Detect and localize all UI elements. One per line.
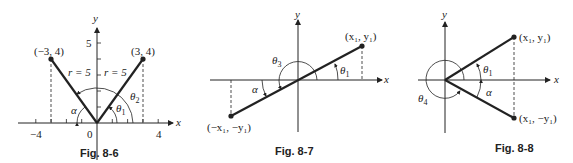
point-label: (x₁, −y₁) [519, 112, 557, 125]
figure-8-8: (x₁, y₁) (x₁, −y₁) x y θ1 α θ4 Fig. 8-8 [418, 8, 559, 154]
theta4-label: θ4 [418, 92, 427, 107]
theta1-label: θ1 [483, 63, 492, 78]
theta1-label: θ1 [116, 102, 125, 117]
point-dot [359, 43, 364, 48]
theta1-arc [477, 64, 481, 80]
y-ticks [97, 43, 101, 107]
point-dot [140, 56, 145, 61]
point-label: (−x₁, −y₁) [207, 121, 251, 134]
x-tick-label: 4 [156, 128, 162, 140]
terminal-line-lower [445, 80, 514, 118]
y-axis-label: y [294, 8, 300, 20]
x-tick-label: −4 [30, 128, 42, 140]
alpha-arc [262, 80, 266, 96]
theta2-label: θ2 [130, 90, 139, 105]
theta3-label: θ3 [272, 54, 281, 69]
alpha-label: α [252, 83, 258, 95]
figure-caption: Fig. 8-8 [495, 142, 534, 154]
radius-label: r = 5 [68, 66, 91, 78]
theta1-arc [335, 64, 338, 80]
point-label: (−3, 4) [34, 45, 64, 58]
y-axis-label: y [92, 12, 98, 24]
origin-label: 0 [87, 128, 93, 140]
figure-caption: Fig. 8-6 [80, 147, 119, 159]
alpha-label: α [486, 86, 492, 98]
figure-8-7: (x₁, y₁) (−x₁, −y₁) x y θ3 θ1 α Fig. 8-7 [207, 8, 389, 157]
point-dot [228, 113, 233, 118]
point-label: (x₁, y₁) [519, 31, 551, 44]
radius-label: r = 5 [104, 66, 127, 78]
point-dot [511, 115, 516, 120]
x-axis-label: x [553, 73, 559, 85]
figure-8-6: (−3, 4) (3, 4) r = 5 r = 5 5 −4 0 4 x y … [18, 12, 181, 160]
point-dot [48, 56, 53, 61]
point-label: (3, 4) [131, 45, 155, 58]
point-dot [511, 34, 516, 39]
alpha-arc [77, 107, 85, 123]
theta1-label: θ1 [340, 64, 349, 79]
figures-canvas: (−3, 4) (3, 4) r = 5 r = 5 5 −4 0 4 x y … [0, 0, 573, 163]
y-tick-label: 5 [86, 37, 92, 49]
y-axis-label: y [441, 8, 447, 20]
figure-caption: Fig. 8-7 [275, 145, 314, 157]
x-axis-label: x [175, 116, 181, 128]
alpha-label: α [71, 104, 77, 116]
x-axis-label: x [383, 73, 389, 85]
point-label: (x₁, y₁) [345, 30, 377, 43]
terminal-line-upper [445, 37, 514, 80]
terminal-line [231, 46, 362, 116]
alpha-arc [477, 80, 481, 97]
